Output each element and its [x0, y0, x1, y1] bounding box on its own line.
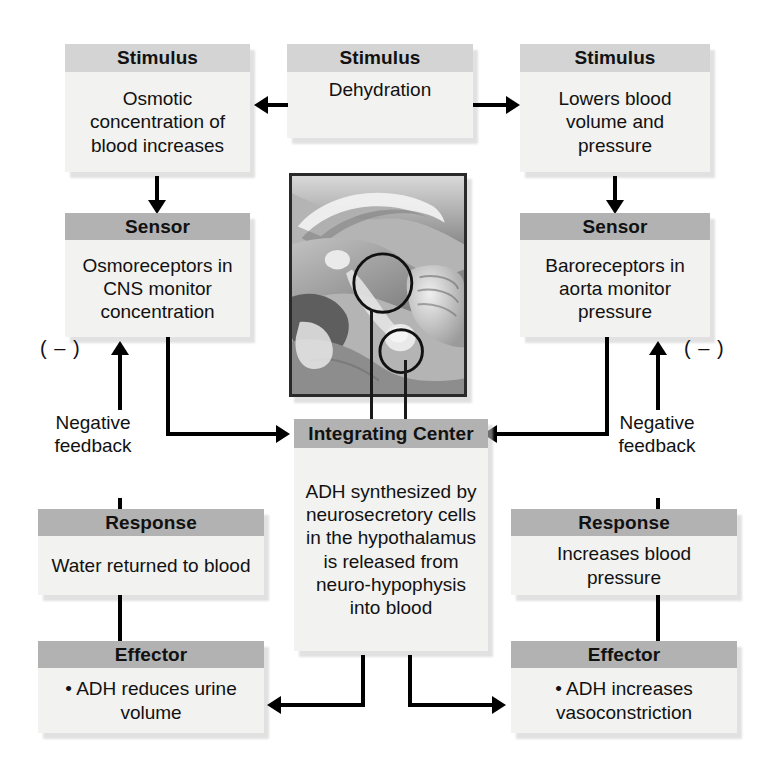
- leader-line-hypothalamus: [370, 310, 373, 434]
- connector-center-to-right: [473, 103, 506, 107]
- stimulus-right-text: Lowers blood volume and pressure: [520, 72, 710, 172]
- sensor-left-header: Sensor: [65, 213, 250, 240]
- sensor-right-header: Sensor: [520, 213, 710, 240]
- effector-right-header: Effector: [511, 641, 737, 668]
- response-right-text: Increases blood pressure: [511, 536, 737, 595]
- box-sensor-left: Sensor Osmoreceptors in CNS monitor conc…: [65, 213, 250, 337]
- arrowhead-feedback-right: [649, 341, 667, 355]
- sensor-right-text: Baroreceptors in aorta monitor pressure: [520, 240, 710, 337]
- sensor-left-text: Osmoreceptors in CNS monitor concentrati…: [65, 240, 250, 337]
- arrowhead-feedback-left: [111, 341, 129, 355]
- integrating-center-text: ADH synthesized by neurosecretory cells …: [294, 448, 488, 651]
- arrowhead-effector-right: [492, 696, 506, 714]
- arrowhead-sensor-right: [606, 200, 624, 214]
- connector-effector-left-to-response: [118, 595, 122, 641]
- stimulus-center-text: Dehydration: [287, 72, 473, 138]
- stimulus-left-header: Stimulus: [65, 44, 250, 72]
- arrowhead-to-stimulus-left: [254, 96, 268, 114]
- response-left-text: Water returned to blood: [38, 536, 264, 595]
- feedback-left-upper-line: [118, 355, 122, 410]
- stimulus-right-header: Stimulus: [520, 44, 710, 72]
- connector-sensor-right-left: [497, 432, 609, 436]
- response-right-header: Response: [511, 509, 737, 536]
- connector-sensor-left-down: [166, 337, 170, 436]
- connector-effector-right-to-response: [656, 595, 660, 641]
- effector-left-header: Effector: [38, 641, 264, 668]
- box-stimulus-right: Stimulus Lowers blood volume and pressur…: [520, 44, 710, 172]
- minus-sign-left: ( – ): [40, 337, 81, 360]
- connector-ic-to-effector-left: [281, 703, 365, 707]
- connector-ic-down-right: [408, 655, 412, 707]
- label-negative-feedback-left: Negative feedback: [38, 412, 148, 458]
- arrowhead-to-stimulus-right: [506, 96, 520, 114]
- connector-stimulus-left-to-sensor: [155, 176, 159, 202]
- effector-right-text: • ADH increases vasoconstriction: [511, 668, 737, 733]
- connector-stimulus-right-to-sensor: [613, 176, 617, 202]
- arrowhead-effector-left: [267, 696, 281, 714]
- box-response-left: Response Water returned to blood: [38, 509, 264, 595]
- connector-ic-to-effector-right: [408, 703, 492, 707]
- minus-sign-right: ( – ): [684, 337, 725, 360]
- box-stimulus-center: Stimulus Dehydration: [287, 44, 473, 138]
- integrating-center-header: Integrating Center: [294, 419, 488, 448]
- connector-ic-down-left: [361, 655, 365, 707]
- box-integrating-center: Integrating Center ADH synthesized by ne…: [294, 419, 488, 651]
- box-effector-left: Effector • ADH reduces urine volume: [38, 641, 264, 733]
- box-effector-right: Effector • ADH increases vasoconstrictio…: [511, 641, 737, 733]
- stimulus-center-header: Stimulus: [287, 44, 473, 72]
- box-sensor-right: Sensor Baroreceptors in aorta monitor pr…: [520, 213, 710, 337]
- box-response-right: Response Increases blood pressure: [511, 509, 737, 595]
- arrowhead-ic-from-left: [276, 425, 290, 443]
- brain-sagittal-illustration: [289, 173, 467, 397]
- effector-left-text: • ADH reduces urine volume: [38, 668, 264, 733]
- label-negative-feedback-right: Negative feedback: [602, 412, 712, 458]
- box-stimulus-left: Stimulus Osmotic concentration of blood …: [65, 44, 250, 172]
- connector-sensor-left-right: [166, 432, 276, 436]
- response-left-header: Response: [38, 509, 264, 536]
- flowchart-canvas: Stimulus Osmotic concentration of blood …: [0, 0, 773, 784]
- connector-center-to-left: [268, 103, 288, 107]
- feedback-right-upper-line: [656, 355, 660, 410]
- arrowhead-sensor-left: [148, 200, 166, 214]
- stimulus-left-text: Osmotic concentration of blood increases: [65, 72, 250, 172]
